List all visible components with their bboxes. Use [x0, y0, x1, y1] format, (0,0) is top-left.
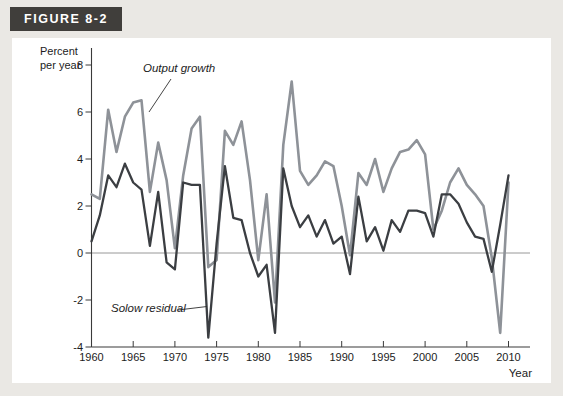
- output-growth-leader-line: [149, 79, 171, 112]
- x-tick-label: 2000: [413, 351, 437, 363]
- x-tick-label: 2010: [496, 351, 520, 363]
- y-tick-label: 0: [77, 247, 83, 259]
- x-tick-label: 1985: [288, 351, 312, 363]
- solow-residual-annotation: Solow residual: [111, 302, 186, 314]
- output-growth-line: [92, 82, 509, 333]
- y-tick-label: 4: [77, 153, 83, 165]
- y-tick-label: -2: [73, 294, 83, 306]
- x-tick-label: 1975: [204, 351, 228, 363]
- output-growth-annotation: Output growth: [143, 62, 215, 74]
- x-tick-label: 1980: [246, 351, 270, 363]
- x-tick-label: 1960: [79, 351, 103, 363]
- y-axis-title-line1: Percent: [40, 44, 80, 58]
- x-tick-label: 2005: [455, 351, 479, 363]
- x-tick-label: 1995: [371, 351, 395, 363]
- y-tick-label: 6: [77, 106, 83, 118]
- line-chart: 86420-2-41960196519701975198019851990199…: [0, 0, 563, 396]
- figure-card: FIGURE 8-2 86420-2-419601965197019751980…: [0, 0, 563, 396]
- y-axis-title: Percent per year: [40, 44, 80, 72]
- x-tick-label: 1990: [329, 351, 353, 363]
- x-axis-title: Year: [479, 366, 532, 380]
- y-axis-title-line2: per year: [40, 58, 80, 72]
- y-tick-label: 2: [77, 200, 83, 212]
- x-tick-label: 1965: [121, 351, 145, 363]
- x-tick-label: 1970: [163, 351, 187, 363]
